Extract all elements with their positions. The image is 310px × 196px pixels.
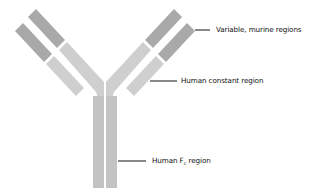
constant-region-label: Human constant region [181, 76, 263, 85]
fc-stem [93, 96, 117, 188]
fc-left-chain [93, 96, 104, 188]
fc-prefix-text: Human [152, 156, 180, 165]
fc-region-label: Human Fc region [152, 156, 211, 166]
variable-region-label: Variable, murine regions [216, 25, 302, 34]
variable-region-text: Variable, murine regions [216, 25, 302, 34]
fc-right-chain [106, 96, 117, 188]
constant-region-text: Human constant region [181, 76, 263, 85]
fc-suffix-text: region [186, 156, 210, 165]
left-arm [15, 9, 104, 98]
